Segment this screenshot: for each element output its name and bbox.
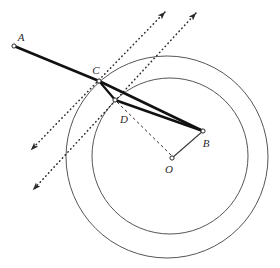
- geometry-figure: A C D B O: [0, 0, 280, 268]
- segment-B-O: [172, 131, 203, 158]
- solid-segments-group: [14, 46, 203, 158]
- point-label-O: O: [165, 163, 173, 175]
- point-marker-B: [201, 129, 205, 133]
- point-markers-group: [12, 44, 205, 160]
- point-marker-C: [97, 79, 101, 83]
- point-label-A: A: [17, 31, 25, 43]
- segment-C-B: [99, 81, 203, 131]
- point-marker-D: [113, 98, 117, 102]
- point-label-C: C: [92, 64, 100, 76]
- segment-A-C: [14, 46, 99, 81]
- segment-D-B: [115, 100, 203, 131]
- geometry-canvas: A C D B O: [0, 0, 280, 268]
- point-marker-O: [170, 156, 174, 160]
- point-label-D: D: [119, 113, 128, 125]
- circles-group: [66, 56, 268, 258]
- point-marker-A: [12, 44, 16, 48]
- outer-circle: [66, 56, 268, 258]
- point-label-B: B: [203, 137, 210, 149]
